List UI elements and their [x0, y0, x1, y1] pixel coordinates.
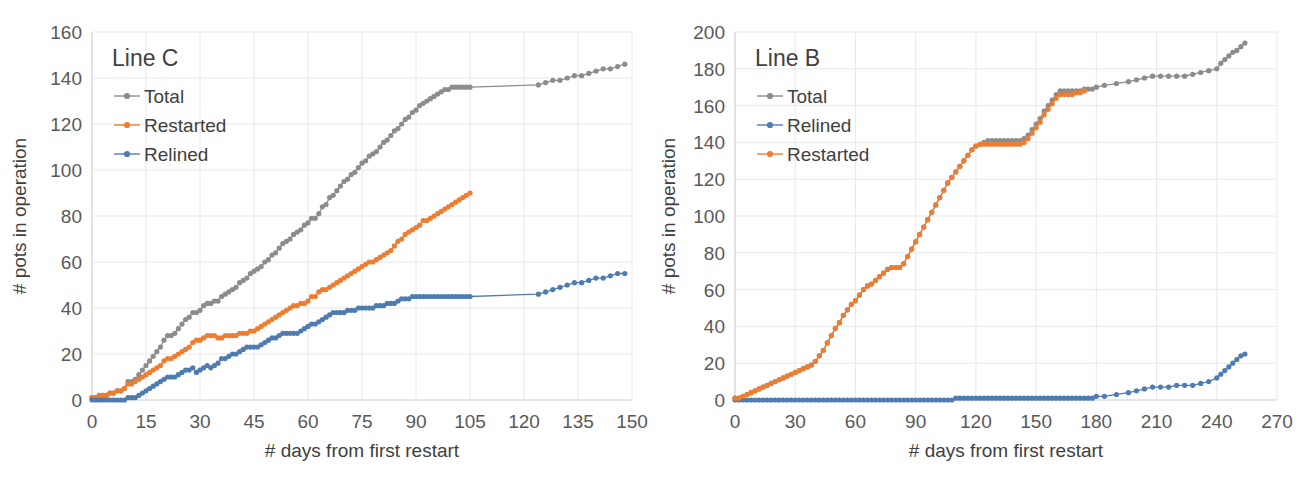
- x-tick-label: 0: [87, 411, 98, 432]
- data-point: [1126, 390, 1131, 395]
- data-point: [1158, 385, 1163, 390]
- data-point: [1174, 74, 1179, 79]
- x-tick-label: 135: [562, 411, 594, 432]
- data-point: [154, 349, 159, 354]
- data-point: [158, 363, 163, 368]
- legend-item-relined[interactable]: Relined: [114, 144, 208, 165]
- data-point: [395, 126, 400, 131]
- data-point: [377, 144, 382, 149]
- data-point: [316, 211, 321, 216]
- data-point: [176, 326, 181, 331]
- y-tick-label: 180: [693, 59, 725, 80]
- data-point: [187, 315, 192, 320]
- data-point: [388, 248, 393, 253]
- chart-panel-line-c: 0204060801001201401600153045607590105120…: [0, 0, 649, 489]
- data-point: [140, 368, 145, 373]
- data-point: [901, 261, 906, 266]
- legend-item-total[interactable]: Total: [114, 86, 184, 107]
- data-point: [949, 175, 954, 180]
- data-point: [1166, 74, 1171, 79]
- legend-marker-icon: [124, 93, 130, 99]
- x-tick-label: 60: [845, 411, 866, 432]
- legend-item-restarted[interactable]: Restarted: [114, 115, 226, 136]
- legend-item-label: Restarted: [144, 115, 226, 136]
- data-point: [215, 299, 220, 304]
- data-point: [873, 278, 878, 283]
- data-point: [961, 158, 966, 163]
- y-tick-label: 0: [71, 390, 82, 411]
- data-point: [615, 271, 620, 276]
- legend-marker-icon: [767, 122, 773, 128]
- data-point: [565, 282, 570, 287]
- x-tick-label: 210: [1141, 411, 1173, 432]
- y-tick-label: 120: [50, 114, 82, 135]
- data-point: [179, 322, 184, 327]
- y-axis-title: # pots in operation: [9, 138, 30, 294]
- data-point: [1054, 96, 1059, 101]
- data-point: [572, 280, 577, 285]
- data-point: [1150, 74, 1155, 79]
- data-point: [1094, 394, 1099, 399]
- x-tick-label: 75: [351, 411, 372, 432]
- data-point: [917, 232, 922, 237]
- data-point: [905, 254, 910, 259]
- data-point: [1234, 48, 1239, 53]
- data-point: [857, 293, 862, 298]
- series-total: [89, 62, 627, 401]
- data-point: [1218, 61, 1223, 66]
- data-point: [845, 307, 850, 312]
- data-point: [356, 165, 361, 170]
- data-point: [608, 273, 613, 278]
- data-point: [809, 362, 814, 367]
- x-tick-label: 120: [960, 411, 992, 432]
- chart-title: Line C: [112, 45, 178, 71]
- data-point: [941, 188, 946, 193]
- y-tick-label: 160: [50, 22, 82, 43]
- legend-item-restarted[interactable]: Restarted: [757, 144, 869, 165]
- data-point: [172, 331, 177, 336]
- legend: TotalRestartedRelined: [114, 86, 226, 165]
- data-point: [929, 210, 934, 215]
- data-point: [334, 188, 339, 193]
- data-point: [957, 164, 962, 169]
- x-tick-label: 90: [405, 411, 426, 432]
- legend-item-relined[interactable]: Relined: [757, 115, 851, 136]
- data-point: [1198, 70, 1203, 75]
- legend-marker-icon: [124, 151, 130, 157]
- data-point: [187, 345, 192, 350]
- data-point: [1222, 57, 1227, 62]
- data-point: [1042, 112, 1047, 117]
- data-point: [557, 78, 562, 83]
- data-point: [825, 340, 830, 345]
- data-point: [817, 353, 822, 358]
- data-point: [385, 138, 390, 143]
- data-point: [601, 276, 606, 281]
- data-point: [331, 193, 336, 198]
- y-axis-tick-labels: 020406080100120140160: [50, 22, 82, 411]
- data-point: [1021, 140, 1026, 145]
- legend-marker-icon: [767, 151, 773, 157]
- data-point: [1198, 381, 1203, 386]
- data-point: [1190, 72, 1195, 77]
- x-tick-label: 180: [1080, 411, 1112, 432]
- data-point: [374, 149, 379, 154]
- chart-svg-line-b: 0204060801001201401601802000306090120150…: [649, 0, 1298, 489]
- data-point: [313, 294, 318, 299]
- x-tick-label: 30: [785, 411, 806, 432]
- data-point: [1190, 383, 1195, 388]
- data-point: [586, 278, 591, 283]
- legend-item-total[interactable]: Total: [757, 86, 827, 107]
- data-point: [244, 276, 249, 281]
- data-point: [392, 243, 397, 248]
- data-point: [833, 326, 838, 331]
- data-point: [937, 195, 942, 200]
- x-tick-label: 150: [1020, 411, 1052, 432]
- data-point: [557, 285, 562, 290]
- x-tick-label: 45: [243, 411, 264, 432]
- x-tick-label: 15: [135, 411, 156, 432]
- data-point: [215, 361, 220, 366]
- data-point: [622, 62, 627, 67]
- x-tick-label: 150: [616, 411, 648, 432]
- y-tick-label: 20: [61, 344, 82, 365]
- legend-item-label: Relined: [144, 144, 208, 165]
